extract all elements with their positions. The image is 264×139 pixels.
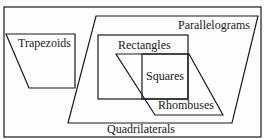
set-rhombuses: Rhombuses — [116, 54, 223, 115]
trapezoids-label: Trapezoids — [18, 36, 71, 50]
quadrilaterals-label: Quadrilaterals — [107, 122, 175, 136]
parallelograms-label: Parallelograms — [178, 18, 250, 32]
set-squares: Squares — [142, 54, 188, 99]
squares-label: Squares — [146, 69, 184, 83]
set-rectangles: Rectangles — [98, 35, 188, 99]
quadrilateral-venn-diagram: Quadrilaterals Trapezoids Parallelograms… — [0, 0, 264, 139]
set-trapezoids: Trapezoids — [6, 34, 75, 88]
rectangles-label: Rectangles — [118, 38, 171, 52]
rhombuses-label: Rhombuses — [158, 98, 214, 112]
